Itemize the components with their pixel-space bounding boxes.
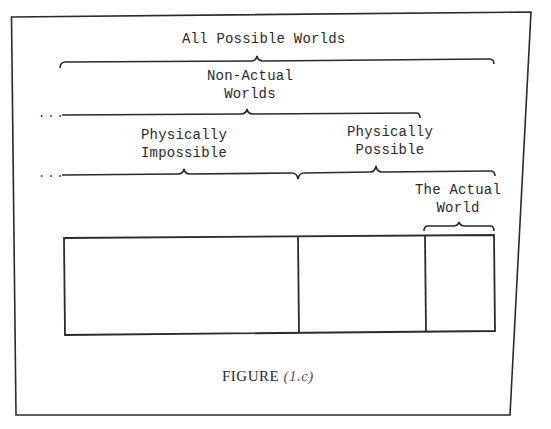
figure-caption: FIGURE (1.c) [222,368,314,385]
label-non-actual-worlds: Non-Actual Worlds [200,67,300,103]
label-non-actual-line2: Worlds [200,85,300,103]
caption-number: (1.c) [283,368,313,384]
ellipsis-physical: ... [38,169,66,179]
label-all-possible-worlds-text: All Possible Worlds [182,31,345,47]
caption-word: FIGURE [222,368,279,384]
brace-physically-impossible [62,169,298,179]
figure-frame: ... ... All Possible Worlds Non-Actual W… [0,0,551,429]
divider-possible-actual [425,236,426,332]
label-actual-world-line1: The Actual [408,181,508,199]
label-physically-possible: Physically Possible [340,123,440,159]
label-phys-impossible-line1: Physically [134,126,234,144]
worlds-box [64,235,495,335]
label-all-possible-worlds: All Possible Worlds [182,30,334,48]
label-physically-impossible: Physically Impossible [134,126,234,162]
brace-non-actual-worlds [62,109,420,118]
label-phys-impossible-line2: Impossible [134,144,234,162]
label-actual-world-line2: World [408,199,508,217]
brace-physically-possible [298,166,495,179]
label-non-actual-line1: Non-Actual [200,67,300,85]
ellipsis-non-actual: ... [38,109,66,119]
label-actual-world: The Actual World [408,181,508,217]
divider-impossible-possible [298,237,299,333]
label-phys-possible-line1: Physically [340,123,440,141]
label-phys-possible-line2: Possible [340,141,440,159]
brace-actual-world [424,222,494,231]
